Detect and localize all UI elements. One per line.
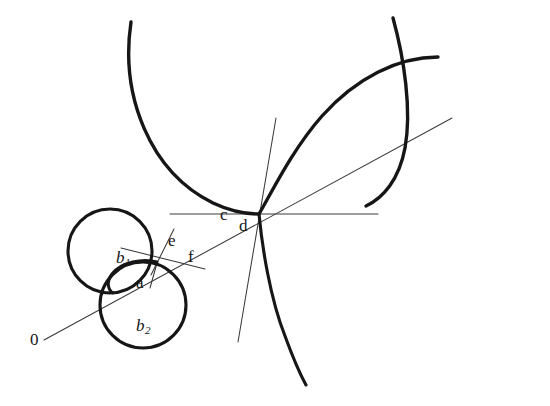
label-c: c bbox=[220, 206, 228, 223]
large-right-arc bbox=[259, 57, 438, 214]
label-origin: 0 bbox=[30, 331, 39, 348]
figure-canvas bbox=[0, 0, 550, 406]
cusp-lower-branch bbox=[259, 214, 306, 385]
label-d: d bbox=[239, 217, 248, 234]
label-e: e bbox=[168, 232, 176, 249]
label-b2-subscript: 2 bbox=[145, 324, 151, 336]
upper-right-arc bbox=[366, 18, 408, 206]
label-f: f bbox=[188, 248, 194, 265]
radial-line-0 bbox=[44, 118, 452, 340]
geometric-figure: 0 b1 b2 a e f c d bbox=[0, 0, 550, 406]
large-left-arc bbox=[129, 22, 259, 214]
label-b1: b1 bbox=[116, 249, 131, 268]
label-b1-subscript: 1 bbox=[125, 256, 131, 268]
label-a: a bbox=[136, 274, 144, 291]
label-b2: b2 bbox=[136, 317, 151, 336]
